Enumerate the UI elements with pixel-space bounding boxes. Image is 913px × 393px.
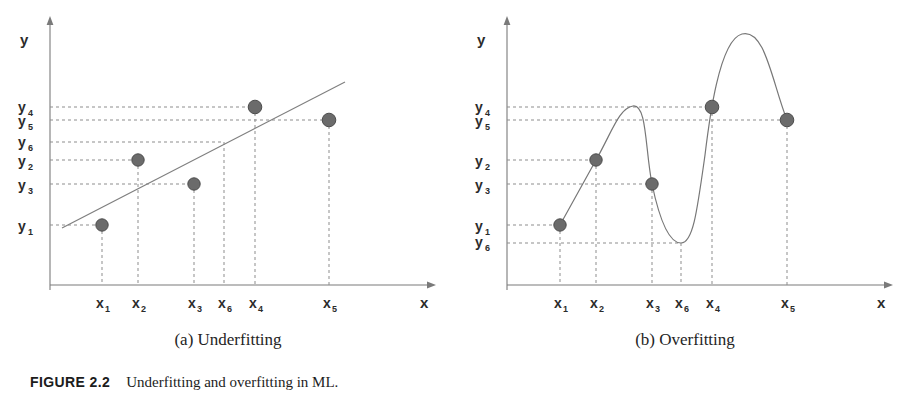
y-tick: y bbox=[475, 113, 483, 129]
subcaption-row: (a) Underfitting (b) Overfitting bbox=[0, 330, 913, 364]
y-axis-underfitting bbox=[47, 16, 54, 290]
y-tick-sub: 5 bbox=[485, 122, 490, 132]
y-tick-sub: 1 bbox=[485, 227, 490, 237]
data-point bbox=[322, 113, 336, 127]
regression-line bbox=[62, 82, 345, 228]
x-tick: x bbox=[323, 295, 331, 311]
x-tick-sub: 2 bbox=[141, 304, 146, 314]
x-tick-sub: 1 bbox=[105, 304, 110, 314]
x-tick-sub: 3 bbox=[655, 304, 660, 314]
y-tick-labels-underfitting: y 4 y 5 y 6 y 2 y 3 y 1 bbox=[18, 99, 33, 237]
y-tick-sub: 2 bbox=[485, 162, 490, 172]
x-tick: x bbox=[188, 295, 196, 311]
x-tick-sub: 6 bbox=[227, 304, 232, 314]
y-tick: y bbox=[18, 113, 26, 129]
x-tick: x bbox=[249, 295, 257, 311]
data-point bbox=[705, 100, 719, 114]
subcaption-overfitting: (b) Overfitting bbox=[457, 330, 913, 350]
x-tick-labels-overfitting: x 1 x 2 x 3 x 6 x 4 x 5 bbox=[554, 295, 795, 314]
x-tick-sub: 2 bbox=[599, 304, 604, 314]
y-tick-sub: 2 bbox=[28, 162, 33, 172]
data-point bbox=[780, 113, 794, 127]
figure-container: y y 4 y 5 y 6 y 2 y 3 y 1 x 1 x bbox=[0, 0, 913, 393]
y-tick: y bbox=[475, 234, 483, 250]
x-tick-sub: 5 bbox=[332, 304, 337, 314]
y-tick: y bbox=[475, 218, 483, 234]
x-axis-label: x bbox=[877, 294, 886, 311]
figure-caption-label: FIGURE 2.2 bbox=[30, 374, 110, 390]
y-tick: y bbox=[18, 134, 26, 150]
data-point bbox=[96, 219, 108, 231]
x-tick-sub: 4 bbox=[715, 304, 720, 314]
data-point bbox=[554, 219, 566, 231]
x-tick-sub: 5 bbox=[790, 304, 795, 314]
x-tick-sub: 6 bbox=[684, 304, 689, 314]
y-guides-underfitting bbox=[50, 107, 329, 225]
y-tick: y bbox=[18, 177, 26, 193]
y-tick-sub: 6 bbox=[28, 143, 33, 153]
x-tick-sub: 3 bbox=[197, 304, 202, 314]
x-axis-label: x bbox=[420, 294, 429, 311]
data-point bbox=[188, 178, 200, 190]
y-tick-sub: 4 bbox=[485, 108, 490, 118]
underfitting-svg: y y 4 y 5 y 6 y 2 y 3 y 1 x 1 x bbox=[0, 0, 456, 330]
y-tick: y bbox=[18, 153, 26, 169]
data-points-underfitting bbox=[96, 100, 336, 231]
y-tick-sub: 5 bbox=[28, 122, 33, 132]
y-tick-sub: 3 bbox=[28, 186, 33, 196]
y-tick: y bbox=[475, 153, 483, 169]
chart-panel-underfitting: y y 4 y 5 y 6 y 2 y 3 y 1 x 1 x bbox=[0, 0, 456, 330]
y-tick: y bbox=[18, 218, 26, 234]
y-guides-overfitting bbox=[507, 107, 787, 243]
x-tick: x bbox=[675, 295, 683, 311]
x-tick: x bbox=[646, 295, 654, 311]
x-guides-underfitting bbox=[102, 107, 329, 285]
x-tick: x bbox=[590, 295, 598, 311]
data-point bbox=[646, 178, 658, 190]
y-axis-label: y bbox=[477, 31, 486, 48]
y-tick: y bbox=[475, 177, 483, 193]
x-tick-sub: 1 bbox=[563, 304, 568, 314]
y-tick-labels-overfitting: y 4 y 5 y 2 y 3 y 1 y 6 bbox=[475, 99, 490, 253]
y-tick-sub: 1 bbox=[28, 227, 33, 237]
x-tick: x bbox=[218, 295, 226, 311]
x-tick-sub: 4 bbox=[258, 304, 263, 314]
x-tick: x bbox=[706, 295, 714, 311]
overfit-curve bbox=[560, 34, 787, 243]
subcaption-underfitting: (a) Underfitting bbox=[0, 330, 456, 350]
x-tick-labels-underfitting: x 1 x 2 x 3 x 6 x 4 x 5 bbox=[96, 295, 337, 314]
data-point bbox=[590, 154, 602, 166]
x-tick: x bbox=[96, 295, 104, 311]
y-tick-sub: 4 bbox=[28, 108, 33, 118]
x-tick: x bbox=[132, 295, 140, 311]
data-point bbox=[248, 100, 262, 114]
x-tick: x bbox=[781, 295, 789, 311]
overfitting-svg: y y 4 y 5 y 2 y 3 y 1 y 6 x 1 x bbox=[457, 0, 913, 330]
figure-caption-text: Underfitting and overfitting in ML. bbox=[126, 374, 338, 390]
data-point bbox=[132, 154, 144, 166]
y-tick-sub: 3 bbox=[485, 186, 490, 196]
figure-caption: FIGURE 2.2Underfitting and overfitting i… bbox=[30, 372, 890, 393]
y-axis-label: y bbox=[20, 31, 29, 48]
x-axis-underfitting bbox=[50, 282, 436, 289]
data-points-overfitting bbox=[554, 100, 794, 231]
x-guides-overfitting bbox=[560, 107, 787, 285]
x-tick: x bbox=[554, 295, 562, 311]
y-axis-overfitting bbox=[504, 16, 511, 290]
y-tick-sub: 6 bbox=[485, 243, 490, 253]
x-axis-overfitting bbox=[507, 282, 893, 289]
chart-panel-overfitting: y y 4 y 5 y 2 y 3 y 1 y 6 x 1 x bbox=[457, 0, 913, 330]
